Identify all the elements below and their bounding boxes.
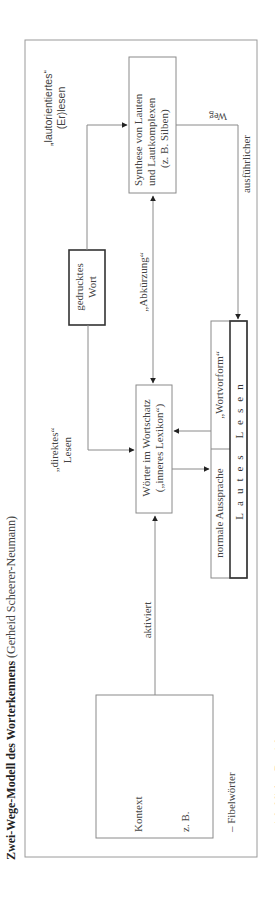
context-line4: – inhaltlicher Bereich [271,697,276,832]
activates-label: aktiviert [141,595,154,645]
printed-word-line2: Wort [86,256,99,318]
phonics-reading-line1: „lautorientiertes“ [42,58,55,158]
context-line1: Kontext [131,697,147,832]
activates-text: aktiviert [141,602,153,639]
pronunciation-node: normale Aussprache [213,450,226,576]
detailed-path-label-2: Weg [209,110,227,123]
phonics-reading-label: „lautorientiertes“ (Er)lesen [42,58,68,158]
title-author: (Gerheid Scheerer-Neumann) [4,516,18,658]
synthesis-line2: und Lautkomplexen [145,56,158,186]
word-preform-node: „Wortvorform“ [213,322,226,448]
detailed-path-label-1: ausführlicher [240,128,253,200]
synthesis-line3: (z. B. Silben) [158,56,171,186]
context-node: Kontext z. B. – Fibelwörter – inhaltlich… [100,697,275,834]
shortcut-label: „Abkürzung“ [137,242,150,322]
context-line2: z. B. [178,697,194,832]
context-line3: – Fibelwörter [224,697,240,832]
shortcut-text: „Abkürzung“ [137,242,150,322]
printed-word-line1: gedrucktes [73,256,86,318]
weg-text: Weg [209,111,227,122]
pronunciation-text: normale Aussprache [213,468,225,558]
direct-reading-line1: „direktes“ [48,420,61,480]
synthesis-node: Synthese von Lauten und Lautkomplexen (z… [132,56,171,190]
printed-word-node: gedrucktes Wort [73,256,99,318]
direct-reading-label: „direktes“ Lesen [48,420,74,480]
lexicon-node: Wörter im Wortschatz („inneres Lexikon“) [140,386,166,510]
reading-aloud-text: Lautes Lesen [233,377,245,519]
ausfuehrlicher-text: ausführlicher [240,135,252,193]
word-preform-text: „Wortvorform“ [213,351,225,419]
reading-aloud-node: Lautes Lesen [232,321,246,576]
direct-reading-line2: Lesen [61,420,74,480]
lexicon-line2: („inneres Lexikon“) [153,386,166,510]
phonics-reading-line2: (Er)lesen [55,58,68,158]
lexicon-line1: Wörter im Wortschatz [140,386,153,510]
synthesis-line1: Synthese von Lauten [132,56,145,186]
figure-title: Zwei-Wege-Modell des Worterkennens (Gerh… [4,516,19,860]
title-main: Zwei-Wege-Modell des Worterkennens [4,661,18,860]
